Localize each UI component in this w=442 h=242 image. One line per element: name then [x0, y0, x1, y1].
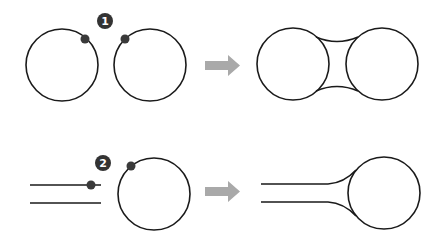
step-1-after: [257, 28, 418, 100]
arrow-right-icon: [205, 55, 240, 76]
fused-tube-top: [261, 170, 356, 184]
step-1-before: [26, 29, 186, 101]
fused-vesicle-left: [257, 28, 329, 100]
fusion-neck-bottom: [316, 87, 358, 92]
fused-vesicle-right: [346, 28, 418, 100]
step-2-after: [261, 157, 420, 229]
step-2-before: [30, 158, 190, 230]
fused-vesicle: [348, 157, 420, 229]
arrow-right-icon: [205, 181, 240, 202]
svg-text:2: 2: [99, 157, 107, 170]
contact-dot-tube: [87, 181, 96, 190]
contact-dot-left: [81, 35, 90, 44]
fusion-neck-top: [316, 37, 358, 42]
contact-dot-vesicle: [127, 162, 136, 171]
svg-text:1: 1: [101, 15, 109, 28]
fused-tube-bottom: [261, 202, 356, 216]
step-badge-2: 2: [95, 155, 111, 171]
step-badge-1: 1: [97, 13, 113, 29]
fusion-diagram: 1 2: [0, 0, 442, 242]
contact-dot-right: [121, 35, 130, 44]
